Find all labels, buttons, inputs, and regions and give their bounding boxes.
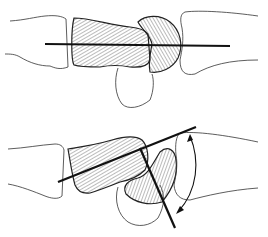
diagram-canvas: [0, 0, 268, 237]
top-right-bone: [180, 11, 258, 74]
bottom-panel: [8, 127, 258, 228]
bottom-left-bone: [8, 144, 64, 198]
arrowhead-bottom-icon: [176, 206, 184, 214]
bottom-right-bone: [174, 132, 258, 200]
top-left-bone: [5, 16, 68, 69]
bone-alignment-diagram: [0, 0, 268, 237]
top-main-bone: [72, 18, 150, 67]
top-panel: [5, 11, 258, 107]
angle-arc-arrow: [178, 136, 196, 212]
top-lower-bone: [116, 68, 154, 107]
